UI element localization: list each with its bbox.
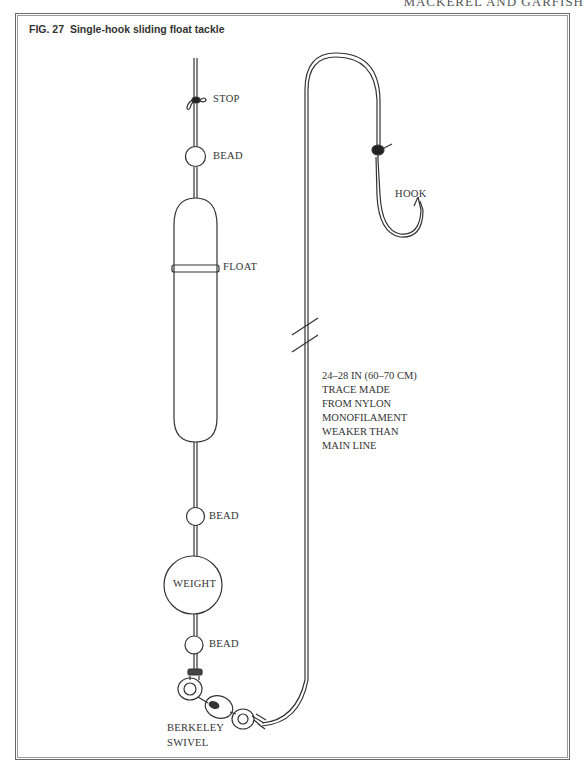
trace-note-line: TRACE MADE <box>322 383 417 397</box>
bead-bottom-icon <box>185 636 203 654</box>
label-swivel-line1: BERKELEY <box>167 722 224 733</box>
label-hook: HOOK <box>395 188 427 199</box>
trace-note-line: 24–28 IN (60–70 CM) <box>322 369 417 383</box>
berkeley-swivel-icon <box>178 669 266 729</box>
trace-note-line: MAIN LINE <box>322 439 417 453</box>
label-bead-bottom: BEAD <box>209 638 239 649</box>
label-stop: STOP <box>213 93 240 104</box>
tackle-diagram <box>0 0 584 774</box>
label-bead-top: BEAD <box>213 150 243 161</box>
label-swivel-line2: SWIVEL <box>167 737 208 748</box>
label-float: FLOAT <box>223 261 257 272</box>
bead-top-icon <box>186 147 206 167</box>
bead-middle-icon <box>187 508 205 526</box>
trace-note-line: MONOFILAMENT <box>322 411 417 425</box>
trace-note-line: FROM NYLON <box>322 397 417 411</box>
trace-note: 24–28 IN (60–70 CM) TRACE MADE FROM NYLO… <box>322 369 417 453</box>
trace-note-line: WEAKER THAN <box>322 425 417 439</box>
label-bead-middle: BEAD <box>209 510 239 521</box>
float-icon <box>172 198 219 442</box>
label-weight: WEIGHT <box>173 578 216 589</box>
hook-knot-icon <box>372 144 392 155</box>
